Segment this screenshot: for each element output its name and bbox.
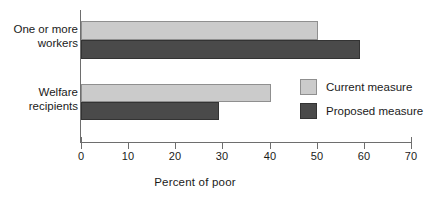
bar-current-1 [81, 84, 271, 102]
legend-item-proposed-measure: Proposed measure [300, 103, 423, 119]
x-axis-tick [128, 143, 129, 149]
chart-legend: Current measure Proposed measure [300, 79, 423, 127]
x-axis-tick-label: 50 [311, 150, 323, 162]
x-axis-title: Percent of poor [0, 176, 436, 188]
legend-swatch-proposed-icon [300, 103, 317, 119]
x-axis-title-text: Percent of poor [154, 176, 236, 188]
legend-label-current: Current measure [326, 81, 412, 93]
legend-item-current-measure: Current measure [300, 79, 423, 95]
x-axis-line [81, 142, 412, 143]
x-axis-tick [270, 143, 271, 149]
x-axis-tick [222, 143, 223, 149]
x-axis-tick [81, 143, 82, 149]
x-axis-tick [364, 143, 365, 149]
category-label-line-1: One or more [2, 22, 78, 36]
bar-proposed-1 [81, 102, 219, 120]
bar-current-0 [81, 21, 318, 40]
category-label-line-2: workers [2, 36, 78, 50]
x-axis-tick [317, 143, 318, 149]
bar-proposed-0 [81, 40, 360, 59]
x-axis-tick-label: 70 [405, 150, 417, 162]
x-axis-tick-label: 30 [216, 150, 228, 162]
category-label-line-1: Welfare [2, 85, 78, 99]
x-axis-tick [175, 143, 176, 149]
category-label-line-2: recipients [2, 99, 78, 113]
x-axis-tick-label: 20 [169, 150, 181, 162]
x-axis-tick-label: 0 [78, 150, 84, 162]
bar-chart: 010203040506070 One or more workers Welf… [0, 0, 436, 204]
x-axis-tick-label: 60 [358, 150, 370, 162]
x-axis-tick-label: 10 [122, 150, 134, 162]
legend-swatch-current-icon [300, 79, 317, 95]
legend-label-proposed: Proposed measure [326, 105, 423, 117]
x-axis-tick-label: 40 [264, 150, 276, 162]
x-axis-tick [411, 143, 412, 149]
